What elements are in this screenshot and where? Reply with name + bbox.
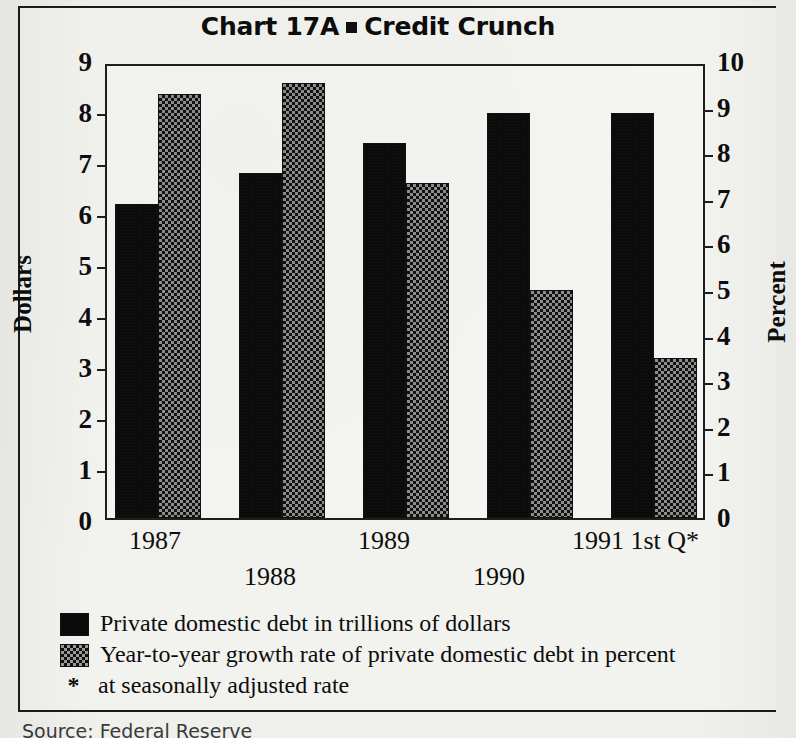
square-bullet-icon [346,22,357,33]
x-label-1987: 1987 [129,526,181,556]
bar-dollars-1991q1 [611,113,654,518]
bar-group-1989 [363,66,449,518]
left-tick-9: 9 [52,49,92,76]
right-tick-1: 1 [717,459,773,486]
left-tick-0: 0 [52,508,92,535]
left-tick-3: 3 [52,355,92,382]
bar-percent-1988 [282,83,325,518]
right-tick-2: 2 [717,414,773,441]
legend-item-dollars: Private domestic debt in trillions of do… [60,608,760,639]
x-label-1988: 1988 [244,562,296,592]
source-note: Source: Federal Reserve [22,720,252,738]
bar-dollars-1987 [115,204,158,518]
x-label-1990: 1990 [473,562,525,592]
left-tick-6: 6 [52,202,92,229]
chart-legend: Private domestic debt in trillions of do… [60,608,760,701]
right-tick-3: 3 [717,368,773,395]
bar-group-1987 [115,66,201,518]
legend-label-dollars: Private domestic debt in trillions of do… [100,608,511,638]
tick-mark [703,110,713,112]
left-axis-title: Dollars [9,255,37,333]
plot-area [105,64,705,520]
bar-group-1990 [487,66,573,518]
left-tick-8: 8 [52,100,92,127]
legend-label-percent: Year-to-year growth rate of private dome… [100,639,676,669]
right-axis-ticks [703,64,713,520]
bar-group-1991q1 [611,66,697,518]
right-tick-10: 10 [717,49,773,76]
chart-title-prefix: Chart 17A [201,12,339,41]
x-label-1991q1: 1991 1st Q* [572,526,699,556]
tick-mark [703,338,713,340]
right-tick-7: 7 [717,186,773,213]
left-tick-7: 7 [52,151,92,178]
tick-mark [703,201,713,203]
legend-swatch-solid-icon [60,613,89,636]
bar-percent-1989 [406,183,449,518]
legend-swatch-checker-icon [60,644,89,667]
bar-dollars-1989 [363,143,406,518]
left-tick-4: 4 [52,304,92,331]
footnote-text: at seasonally adjusted rate [98,670,349,700]
left-tick-5: 5 [52,253,92,280]
bar-percent-1990 [530,290,573,518]
chart-title: Chart 17ACredit Crunch [20,12,736,41]
tick-mark [703,429,713,431]
x-label-1989: 1989 [358,526,410,556]
legend-footnote: * at seasonally adjusted rate [60,670,760,701]
right-tick-6: 6 [717,231,773,258]
right-tick-0: 0 [717,505,773,532]
tick-mark [703,246,713,248]
left-tick-2: 2 [52,406,92,433]
bar-percent-1991q1 [654,358,697,518]
legend-item-percent: Year-to-year growth rate of private dome… [60,639,760,670]
tick-mark [703,383,713,385]
tick-mark [703,474,713,476]
chart-title-suffix: Credit Crunch [364,12,555,41]
left-axis-tick-labels: 9 8 7 6 5 4 3 2 1 0 [30,64,92,520]
bar-dollars-1990 [487,113,530,518]
bar-percent-1987 [158,94,201,518]
bar-group-1988 [239,66,325,518]
bar-dollars-1988 [239,173,282,518]
right-tick-9: 9 [717,95,773,122]
right-axis-title: Percent [763,261,791,342]
tick-mark [703,155,713,157]
x-axis-labels: 1987 1988 1989 1990 1991 1st Q* [105,524,705,598]
footnote-marker: * [60,670,87,700]
chart-figure: Chart 17ACredit Crunch 9 8 7 6 5 4 3 2 1… [18,6,776,712]
right-tick-8: 8 [717,140,773,167]
tick-mark [703,292,713,294]
left-tick-1: 1 [52,457,92,484]
bar-groups [107,66,703,518]
